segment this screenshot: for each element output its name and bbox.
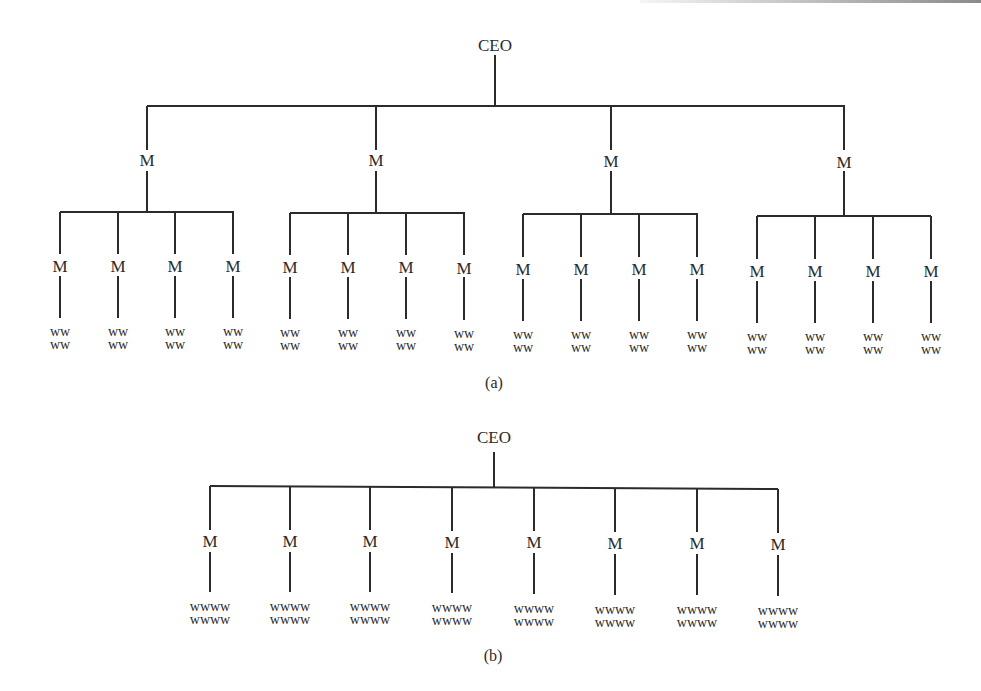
node-ceo-b: CEO (476, 429, 512, 446)
node-submanager: M (166, 258, 183, 275)
workers-group: wwww (50, 325, 70, 351)
workers-group: wwww (165, 325, 185, 351)
node-manager-b: M (201, 533, 218, 550)
node-submanager: M (688, 261, 705, 278)
workers-group: wwww (396, 326, 416, 352)
node-ceo-a: CEO (477, 37, 513, 54)
node-submanager: M (455, 260, 472, 277)
workers-group: wwww (338, 326, 358, 352)
node-submanager: M (51, 258, 68, 275)
node-manager-b: M (688, 535, 705, 552)
node-submanager: M (397, 259, 414, 276)
node-manager-a-1: M (138, 152, 155, 169)
node-manager-b: M (525, 534, 542, 551)
node-submanager: M (339, 259, 356, 276)
workers-group: wwwwwwww (190, 600, 230, 626)
node-manager-a-2: M (367, 152, 384, 169)
workers-group: wwwwwwww (270, 600, 310, 626)
node-manager-b: M (361, 533, 378, 550)
workers-group: wwwwwwww (595, 603, 635, 629)
node-submanager: M (922, 263, 939, 280)
node-submanager: M (806, 263, 823, 280)
figure-caption-a: (a) (485, 374, 503, 392)
node-manager-b: M (281, 533, 298, 550)
workers-group: wwwwwwww (350, 600, 390, 626)
node-manager-a-3: M (602, 153, 619, 170)
node-submanager: M (572, 261, 589, 278)
figure-caption-b: (b) (484, 647, 503, 665)
workers-group: wwwwwwww (677, 603, 717, 629)
workers-group: wwww (280, 326, 300, 352)
connector-lines-a (0, 0, 981, 691)
workers-group: wwwwwwww (514, 602, 554, 628)
node-manager-b: M (606, 535, 623, 552)
workers-group: wwww (805, 330, 825, 356)
workers-group: wwww (921, 330, 941, 356)
workers-group: wwww (454, 327, 474, 353)
node-submanager: M (109, 258, 126, 275)
workers-group: wwww (571, 328, 591, 354)
node-manager-b: M (769, 536, 786, 553)
workers-group: wwww (687, 328, 707, 354)
workers-group: wwwwwwww (432, 601, 472, 627)
node-submanager: M (630, 261, 647, 278)
node-submanager: M (514, 261, 531, 278)
node-submanager: M (224, 258, 241, 275)
workers-group: wwww (108, 325, 128, 351)
workers-group: wwww (513, 328, 533, 354)
workers-group: wwwwwwww (758, 604, 798, 630)
workers-group: wwww (629, 328, 649, 354)
workers-group: wwww (223, 325, 243, 351)
node-submanager: M (748, 263, 765, 280)
node-submanager: M (281, 259, 298, 276)
node-submanager: M (864, 263, 881, 280)
workers-group: wwww (863, 330, 883, 356)
node-manager-b: M (443, 534, 460, 551)
node-manager-a-4: M (835, 154, 852, 171)
workers-group: wwww (747, 330, 767, 356)
